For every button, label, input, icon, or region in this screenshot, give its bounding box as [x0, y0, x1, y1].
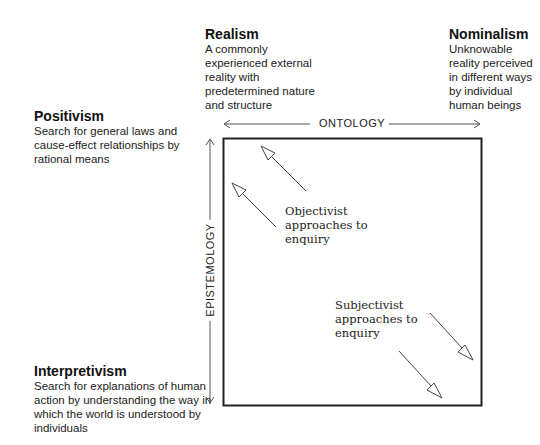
objectivist-line: approaches to — [285, 218, 368, 232]
subjectivist-arrow-2 — [399, 351, 431, 386]
objectivist-label: Objectivist approaches to enquiry — [285, 204, 368, 246]
subjectivist-line: Subjectivist — [335, 298, 418, 312]
objectivist-line: Objectivist — [285, 204, 368, 218]
subjectivist-arrow-1 — [430, 313, 462, 348]
subjectivist-arrowhead-1-icon — [458, 345, 473, 360]
subjectivist-arrowhead-2-icon — [427, 383, 442, 398]
ontology-axis-label: ONTOLOGY — [315, 117, 389, 129]
subjectivist-label: Subjectivist approaches to enquiry — [335, 298, 418, 340]
objectivist-arrow-1 — [270, 155, 306, 191]
objectivist-arrow-2 — [241, 192, 276, 227]
objectivist-line: enquiry — [285, 232, 368, 246]
subjectivist-line: enquiry — [335, 326, 418, 340]
framework-box — [224, 139, 482, 406]
epistemology-axis-label: EPISTEMOLOGY — [204, 219, 216, 320]
diagram-graphics — [0, 0, 540, 445]
subjectivist-line: approaches to — [335, 312, 418, 326]
